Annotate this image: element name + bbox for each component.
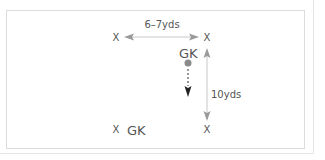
movement-arrow [185, 69, 192, 97]
player-top-left: X [113, 32, 120, 43]
goalkeeper-top: GK [179, 46, 198, 61]
ball-icon [185, 60, 192, 67]
horizontal-distance-arrow [124, 34, 199, 41]
player-bottom-left: X [113, 124, 120, 135]
vertical-distance-arrow [204, 48, 211, 121]
vertical-distance-label: 10yds [211, 89, 241, 100]
player-top-right: X [204, 32, 211, 43]
goalkeeper-bottom: GK [127, 123, 146, 138]
horizontal-distance-label: 6–7yds [144, 19, 179, 30]
drill-diagram: 6–7yds 10yds X X X X GK GK [0, 0, 325, 160]
player-bottom-right: X [204, 124, 211, 135]
